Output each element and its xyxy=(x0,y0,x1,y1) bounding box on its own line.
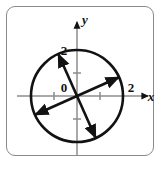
figure-root: x y 0 2 2 xyxy=(0,0,165,170)
y-axis-label: y xyxy=(80,12,88,27)
y-axis-tick-label-two: 2 xyxy=(61,43,68,58)
vector-lower-left xyxy=(35,96,77,115)
vector-upper-right xyxy=(77,77,119,96)
x-axis-tick-label-two: 2 xyxy=(128,80,135,95)
unit-circle-plot: x y 0 2 2 xyxy=(0,0,165,170)
vector-lower-right xyxy=(77,96,96,138)
origin-label: 0 xyxy=(61,80,68,95)
x-axis-label: x xyxy=(147,89,155,104)
